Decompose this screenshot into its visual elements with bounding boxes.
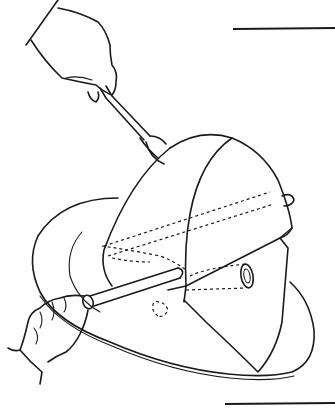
lower-hand-icon	[8, 295, 88, 384]
bottom-rule	[225, 403, 335, 404]
bone-end-icon	[239, 263, 255, 289]
ham-icon	[102, 135, 294, 372]
illustration: Carving a ham on a platter	[0, 0, 335, 409]
top-rule	[233, 28, 335, 29]
ham-carving-drawing	[0, 0, 335, 409]
upper-hand-icon	[26, 0, 117, 102]
carving-fork-icon	[100, 86, 166, 164]
carving-knife-icon	[81, 268, 183, 310]
